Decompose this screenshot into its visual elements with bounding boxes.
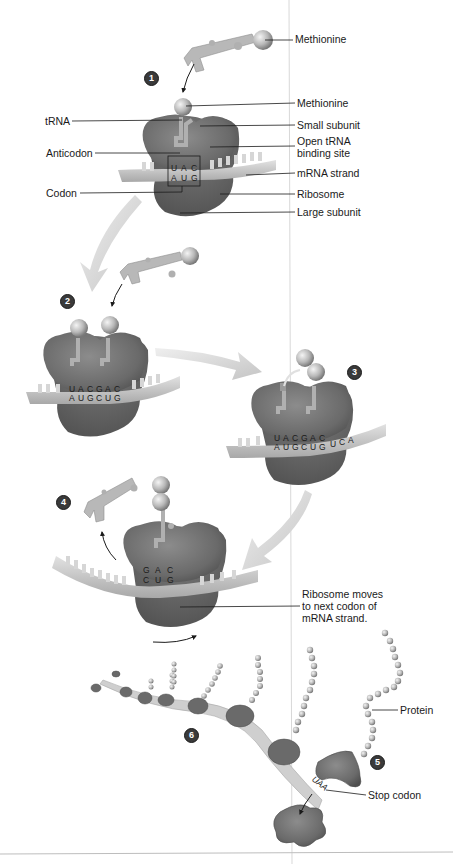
translation-diagram: U A C A U G U A C G A C A U G C U G U A … <box>0 0 453 864</box>
svg-text:U: U <box>78 393 84 403</box>
released-protein <box>361 630 403 757</box>
label-methionine-free: Methionine <box>295 33 346 45</box>
svg-text:G: G <box>87 393 94 403</box>
step1-ribosome <box>118 98 276 216</box>
svg-text:G: G <box>319 442 326 452</box>
svg-text:A: A <box>274 442 280 452</box>
step-badge-1: 1 <box>144 71 159 86</box>
label-large-subunit: Large subunit <box>297 206 361 218</box>
label-anticodon: Anticodon <box>46 147 93 159</box>
step-badge-5: 5 <box>370 755 385 770</box>
step-badge-6: 6 <box>184 728 199 743</box>
svg-text:A: A <box>69 393 75 403</box>
arrow-trna-enters <box>183 64 194 92</box>
svg-text:C: C <box>167 565 173 575</box>
svg-text:A: A <box>155 565 161 575</box>
svg-text:C: C <box>339 437 345 447</box>
label-ribosome: Ribosome <box>297 188 344 200</box>
step4-ribosome <box>52 476 258 627</box>
ribosome-medium <box>188 698 208 714</box>
process-arrow-3-to-4 <box>242 490 312 570</box>
step4-released-trna <box>84 478 138 522</box>
svg-text:U: U <box>330 439 336 449</box>
svg-text:U: U <box>105 393 111 403</box>
svg-text:G: G <box>167 575 174 585</box>
svg-text:C: C <box>191 163 197 173</box>
label-trna: tRNA <box>45 115 70 127</box>
label-ribosome-moves: Ribosome moves to next codon of mRNA str… <box>302 588 394 624</box>
ribosome-small <box>112 671 120 677</box>
ribosome-small <box>91 684 101 692</box>
arrow-trna-released <box>102 532 116 560</box>
released-small-subunit <box>274 805 326 847</box>
svg-text:G: G <box>143 565 150 575</box>
ribosome-small <box>158 694 174 706</box>
label-protein: Protein <box>400 704 433 716</box>
label-open-trna-binding-site: Open tRNA binding site <box>297 135 362 159</box>
svg-text:C: C <box>143 575 149 585</box>
ribosome-large <box>268 739 300 765</box>
ribosome-small <box>138 692 152 704</box>
arrow-ribosome-moves <box>153 636 196 642</box>
svg-text:G: G <box>114 393 121 403</box>
label-stop-codon: Stop codon <box>368 789 421 801</box>
svg-text:G: G <box>191 173 198 183</box>
arrow-trna-2-enters <box>112 284 122 306</box>
page-bottom-rule <box>0 852 453 854</box>
svg-text:U: U <box>283 442 289 452</box>
label-small-subunit: Small subunit <box>297 119 360 131</box>
label-methionine-bound: Methionine <box>297 97 348 109</box>
svg-text:U: U <box>181 173 187 183</box>
step1-free-trna <box>184 30 273 72</box>
label-codon: Codon <box>46 187 77 199</box>
process-arrow-2-to-3 <box>155 348 262 380</box>
svg-text:G: G <box>292 442 299 452</box>
step2-incoming-trna <box>120 247 199 284</box>
step-badge-3: 3 <box>347 365 362 380</box>
svg-text:C: C <box>96 393 102 403</box>
svg-text:A: A <box>171 173 177 183</box>
svg-text:A: A <box>348 435 354 445</box>
label-mrna-strand: mRNA strand <box>297 167 359 179</box>
ribosome-small <box>120 687 132 697</box>
step2-ribosome <box>26 316 180 437</box>
step1-bases: U A C A U G <box>171 163 198 183</box>
svg-text:U: U <box>310 442 316 452</box>
step-badge-2: 2 <box>60 294 75 309</box>
step-badge-4: 4 <box>56 495 71 510</box>
svg-text:U: U <box>155 575 161 585</box>
svg-text:A: A <box>181 163 187 173</box>
polyribosome <box>91 630 403 847</box>
svg-text:C: C <box>301 442 307 452</box>
ribosome-medium <box>226 705 254 727</box>
step4-bases: G A C C U G <box>143 565 174 585</box>
diagram-artwork: U A C A U G U A C G A C A U G C U G U A … <box>0 0 453 864</box>
svg-text:U: U <box>171 163 177 173</box>
